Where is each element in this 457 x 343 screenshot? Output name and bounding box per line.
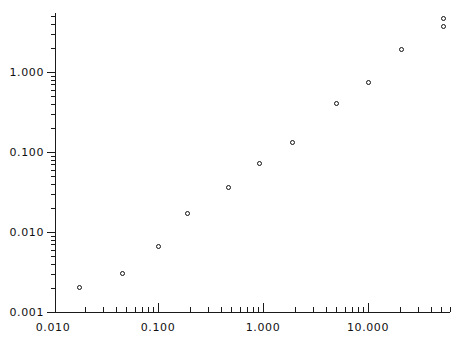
data-point-marker bbox=[334, 101, 339, 106]
y-axis-minor-tick bbox=[51, 256, 55, 257]
log-log-scatter-chart: 1.0000.1000.0100.001 0.0100.1001.00010.0… bbox=[0, 0, 457, 343]
y-axis-minor-tick bbox=[51, 114, 55, 115]
data-point-series bbox=[0, 0, 457, 343]
x-axis-minor-tick bbox=[363, 307, 364, 312]
x-axis-minor-tick bbox=[231, 307, 232, 312]
x-axis-minor-tick bbox=[431, 307, 432, 312]
x-axis-minor-tick bbox=[247, 307, 248, 312]
x-axis-minor-tick bbox=[148, 307, 149, 312]
x-axis-major-tick bbox=[263, 303, 264, 312]
y-axis-minor-tick bbox=[51, 48, 55, 49]
data-point-marker bbox=[226, 185, 231, 190]
y-axis-minor-tick bbox=[51, 96, 55, 97]
x-axis-minor-tick bbox=[313, 307, 314, 312]
data-point-marker bbox=[441, 16, 446, 21]
x-axis-minor-tick bbox=[336, 307, 337, 312]
y-axis-minor-tick bbox=[51, 240, 55, 241]
y-axis-minor-tick bbox=[51, 160, 55, 161]
data-point-marker bbox=[399, 47, 404, 52]
y-axis-line bbox=[55, 13, 56, 313]
x-axis-minor-tick bbox=[103, 307, 104, 312]
y-axis-tick-label: 1.000 bbox=[10, 67, 45, 78]
data-point-marker bbox=[290, 140, 295, 145]
data-point-marker bbox=[77, 285, 82, 290]
x-axis-minor-tick bbox=[221, 307, 222, 312]
x-axis-minor-tick bbox=[258, 307, 259, 312]
x-axis-minor-tick bbox=[240, 307, 241, 312]
y-axis-minor-tick bbox=[51, 244, 55, 245]
x-axis-minor-tick bbox=[253, 307, 254, 312]
y-axis-major-tick bbox=[47, 312, 55, 313]
data-point-marker bbox=[257, 161, 262, 166]
x-axis-minor-tick bbox=[85, 307, 86, 312]
x-axis-minor-tick bbox=[400, 307, 401, 312]
y-axis-major-tick bbox=[47, 152, 55, 153]
x-axis-minor-tick bbox=[142, 307, 143, 312]
x-axis-tick-label: 0.100 bbox=[118, 322, 198, 333]
x-axis-minor-tick bbox=[418, 307, 419, 312]
x-axis-tick-label: 10.000 bbox=[328, 322, 408, 333]
y-axis-minor-tick bbox=[51, 164, 55, 165]
y-axis-minor-tick bbox=[51, 90, 55, 91]
y-axis-minor-tick bbox=[51, 250, 55, 251]
data-point-marker bbox=[441, 24, 446, 29]
y-axis-minor-tick bbox=[51, 184, 55, 185]
y-axis-minor-tick bbox=[51, 176, 55, 177]
x-axis-minor-tick bbox=[450, 307, 451, 312]
x-axis-tick-label: 1.000 bbox=[223, 322, 303, 333]
x-axis-minor-tick bbox=[126, 307, 127, 312]
y-axis-minor-tick bbox=[51, 288, 55, 289]
x-axis-minor-tick bbox=[441, 307, 442, 312]
y-axis-minor-tick bbox=[51, 264, 55, 265]
x-axis-minor-tick bbox=[358, 307, 359, 312]
data-point-marker bbox=[185, 211, 190, 216]
y-axis-minor-tick bbox=[51, 236, 55, 237]
data-point-marker bbox=[156, 244, 161, 249]
y-axis-tick-label: 0.010 bbox=[10, 227, 45, 238]
x-axis-major-tick bbox=[158, 303, 159, 312]
y-axis-major-tick bbox=[47, 232, 55, 233]
y-axis-tick-label: 0.001 bbox=[10, 307, 45, 318]
y-axis-minor-tick bbox=[51, 84, 55, 85]
x-axis-minor-tick bbox=[208, 307, 209, 312]
y-axis-minor-tick bbox=[51, 274, 55, 275]
y-axis-minor-tick bbox=[51, 128, 55, 129]
y-axis-tick-label: 0.100 bbox=[10, 147, 45, 158]
x-axis-minor-tick bbox=[153, 307, 154, 312]
x-axis-minor-tick bbox=[295, 307, 296, 312]
y-axis-minor-tick bbox=[51, 80, 55, 81]
y-axis-major-tick bbox=[47, 72, 55, 73]
y-axis-minor-tick bbox=[51, 208, 55, 209]
x-axis-major-tick bbox=[368, 303, 369, 312]
y-axis-minor-tick bbox=[51, 170, 55, 171]
data-point-marker bbox=[120, 271, 125, 276]
data-point-marker bbox=[366, 80, 371, 85]
x-axis-line bbox=[55, 312, 450, 313]
y-axis-minor-tick bbox=[51, 156, 55, 157]
x-axis-minor-tick bbox=[116, 307, 117, 312]
x-axis-minor-tick bbox=[326, 307, 327, 312]
x-axis-minor-tick bbox=[352, 307, 353, 312]
x-axis-minor-tick bbox=[135, 307, 136, 312]
x-axis-tick-label: 0.010 bbox=[13, 322, 93, 333]
y-axis-minor-tick bbox=[51, 16, 55, 17]
y-axis-minor-tick bbox=[51, 194, 55, 195]
y-axis-minor-tick bbox=[51, 24, 55, 25]
y-axis-minor-tick bbox=[51, 76, 55, 77]
y-axis-minor-tick bbox=[51, 104, 55, 105]
y-axis-minor-tick bbox=[51, 34, 55, 35]
x-axis-minor-tick bbox=[345, 307, 346, 312]
x-axis-minor-tick bbox=[190, 307, 191, 312]
